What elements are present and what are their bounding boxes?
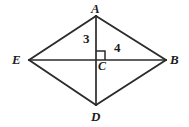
side-BD [96, 60, 166, 105]
segment-label-AC: 3 [83, 32, 90, 45]
vertex-label-B: B [170, 53, 179, 66]
vertex-label-D: D [91, 110, 100, 123]
geometry-figure: A B D E C 3 4 [0, 0, 189, 127]
vertex-dot-E [28, 59, 30, 61]
side-DE [29, 60, 96, 105]
vertex-dot-D [95, 104, 97, 106]
vertex-label-A: A [91, 2, 100, 15]
vertex-label-E: E [12, 53, 21, 66]
side-AB [96, 16, 166, 60]
segment-label-CB: 4 [114, 41, 121, 54]
figure-canvas [0, 0, 189, 127]
vertex-dot-B [165, 59, 167, 61]
vertex-label-C: C [98, 60, 106, 73]
